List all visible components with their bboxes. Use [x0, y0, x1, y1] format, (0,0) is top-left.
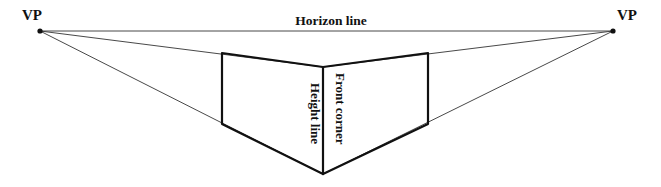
convergence-line-group — [40, 31, 613, 174]
box-top-edge-right — [323, 53, 428, 67]
height-line-label: Height line — [308, 83, 323, 144]
vanishing-point-left-dot — [37, 28, 42, 33]
perspective-diagram: VP VP Horizon line Height line Front cor… — [0, 0, 661, 187]
horizon-line-label: Horizon line — [295, 13, 367, 28]
box-edge-group — [222, 53, 428, 174]
perspective-drawing-canvas: VP VP Horizon line Height line Front cor… — [0, 0, 661, 187]
vanishing-point-left-label: VP — [22, 7, 42, 23]
vanishing-point-right-label: VP — [617, 7, 637, 23]
vanishing-point-right-dot — [610, 28, 615, 33]
box-top-edge-left — [222, 53, 323, 67]
front-corner-label: Front corner — [333, 73, 348, 145]
box-bottom-edge-left — [222, 124, 323, 174]
